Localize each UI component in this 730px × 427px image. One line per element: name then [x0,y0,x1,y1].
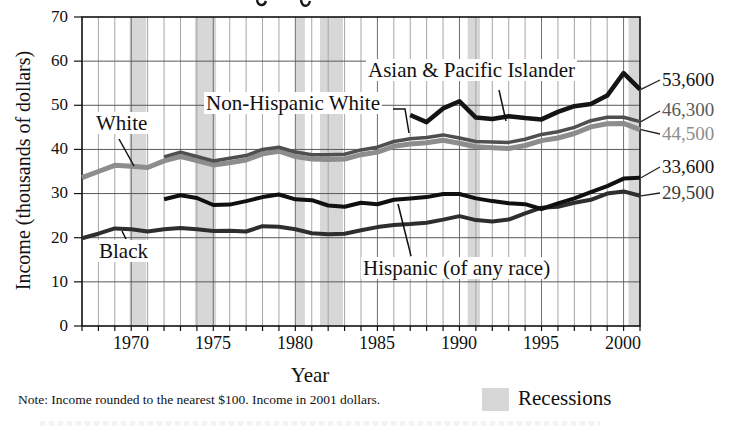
end-value-label-white: 44,500 [662,124,714,144]
value-leader-line [641,130,660,134]
x-tick-label: 1970 [101,334,161,353]
x-tick-label: 1995 [511,334,571,353]
chart-canvas [0,0,730,427]
y-tick-label: 70 [28,8,68,26]
recessions-legend-label: Recessions [518,387,611,409]
x-tick-label: 1985 [347,334,407,353]
y-tick-label: 30 [28,184,68,202]
x-tick-label: 1990 [429,334,489,353]
recession-band [629,17,640,326]
x-axis-title: Year [250,364,370,386]
x-tick-label: 1975 [183,334,243,353]
y-tick-label: 10 [28,273,68,291]
series-label-black: Black [97,240,150,262]
y-tick-label: 0 [28,317,68,335]
cropped-title-mark [257,0,266,5]
y-tick-label: 20 [28,229,68,247]
note-text: Note: Income rounded to the nearest $100… [18,393,380,407]
bottom-cropped-text [40,421,600,426]
series-label-asian-pacific-islander: Asian & Pacific Islander [366,59,577,81]
x-tick-label: 2000 [593,334,653,353]
end-value-label-hispanic: 33,600 [662,157,714,177]
recession-band [130,17,147,326]
series-label-hispanic: Hispanic (of any race) [361,257,552,279]
y-tick-label: 60 [28,52,68,70]
series-label-white: White [94,112,149,134]
chart-root: Income (thousands of dollars) 0 10 20 30… [0,0,730,427]
label-pointer-line [393,109,409,133]
value-leader-line [641,80,660,89]
cropped-title-mark [301,0,310,6]
y-tick-label: 50 [28,96,68,114]
series-line-non-hispanic-white [164,117,640,161]
recessions-legend-swatch [482,388,509,411]
end-value-label-non-hispanic-white: 46,300 [662,100,714,120]
value-leader-line [641,111,660,122]
value-leader-line [641,167,660,178]
y-tick-label: 40 [28,140,68,158]
label-pointer-line [398,204,411,256]
end-value-label-black: 29,500 [662,183,714,203]
recession-band [295,17,305,326]
recession-band [320,17,343,326]
x-tick-label: 1980 [265,334,325,353]
series-label-non-hispanic-white: Non-Hispanic White [204,92,382,114]
value-leader-line [641,193,660,196]
y-axis-title: Income (thousands of dollars) [13,36,34,306]
end-value-label-asian: 53,600 [662,70,714,90]
